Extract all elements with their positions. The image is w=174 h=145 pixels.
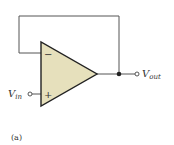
circuit-diagram: − + Vin Vout (a) bbox=[0, 0, 174, 145]
junction-dot bbox=[117, 72, 122, 77]
output-terminal bbox=[135, 72, 139, 76]
inverting-input-symbol: − bbox=[44, 49, 52, 60]
input-terminal bbox=[28, 92, 32, 96]
vout-label: Vout bbox=[142, 68, 161, 81]
figure-caption: (a) bbox=[11, 133, 22, 142]
vin-label: Vin bbox=[8, 88, 22, 101]
noninverting-input-symbol: + bbox=[44, 89, 52, 100]
